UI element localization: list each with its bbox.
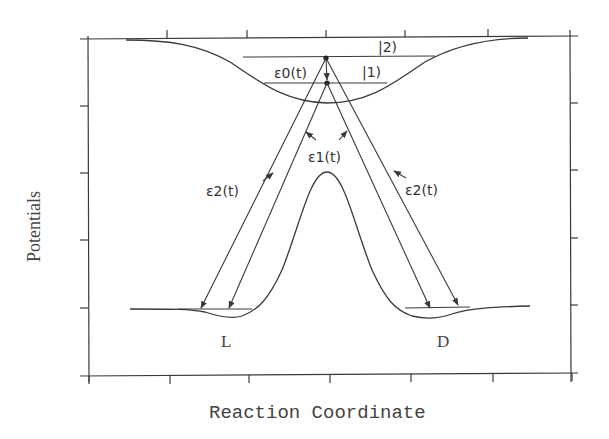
pointer-e1-right xyxy=(339,131,347,140)
pointer-e1-left xyxy=(306,132,316,140)
label-state-2: |2) xyxy=(378,39,397,56)
e1-left-arrow xyxy=(229,83,327,308)
pump-arrow xyxy=(326,58,327,80)
label-left-well: L xyxy=(221,332,231,351)
x-axis-ticks xyxy=(89,29,572,384)
e2-right-arrow xyxy=(326,58,458,305)
label-e2-right-pulse: ε2(t) xyxy=(405,182,438,198)
y-axis-ticks xyxy=(80,103,578,308)
x-axis-label: Reaction Coordinate xyxy=(209,402,426,424)
bottom-axis xyxy=(80,373,578,376)
label-pump-pulse: ε0(t) xyxy=(274,65,307,81)
level-2-line xyxy=(243,56,435,57)
ground-state-potential xyxy=(130,172,530,318)
label-state-1: |1) xyxy=(362,64,381,81)
left-axis xyxy=(88,36,89,382)
right-axis xyxy=(570,30,571,382)
pointer-e2-right xyxy=(394,171,406,178)
label-e2-left-pulse: ε2(t) xyxy=(206,183,239,199)
ground-level-right xyxy=(405,307,470,308)
label-right-well: D xyxy=(437,332,449,351)
potential-energy-diagram: |2) |1) ε0(t) ε1(t) ε2(t) ε2(t) L D Reac… xyxy=(0,0,609,439)
label-e1-pulse: ε1(t) xyxy=(308,149,341,165)
y-axis-label: Potentials xyxy=(24,191,44,262)
